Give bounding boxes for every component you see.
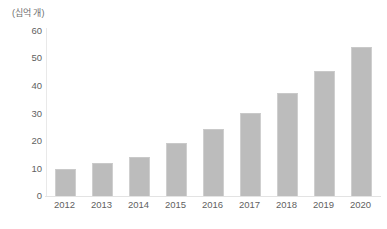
bar-group-2020: 2020 [342,0,379,229]
x-tick-label-2014: 2014 [120,200,157,210]
bar-2018 [277,93,298,196]
y-tick-label-30: 30 [20,109,42,119]
bar-group-2018: 2018 [268,0,305,229]
y-tick-label-60: 60 [20,26,42,36]
bar-2019 [314,71,335,196]
bar-2016 [203,129,224,196]
bars-layer: 2012 2013 2014 2015 2016 2017 2018 [46,0,381,229]
bar-group-2016: 2016 [194,0,231,229]
x-tick-label-2017: 2017 [231,200,268,210]
y-tick-label-40: 40 [20,81,42,91]
x-tick-label-2016: 2016 [194,200,231,210]
y-axis-tick-labels: 60 50 40 30 20 10 0 [16,0,42,229]
y-tick-label-10: 10 [20,164,42,174]
bar-group-2017: 2017 [231,0,268,229]
bar-group-2015: 2015 [157,0,194,229]
bar-2012 [55,169,76,196]
bar-2020 [351,47,372,197]
bar-group-2019: 2019 [305,0,342,229]
y-tick-label-50: 50 [20,53,42,63]
x-tick-label-2018: 2018 [268,200,305,210]
x-tick-label-2019: 2019 [305,200,342,210]
x-tick-label-2012: 2012 [46,200,83,210]
y-tick-label-0: 0 [20,191,42,201]
bar-group-2014: 2014 [120,0,157,229]
bar-2014 [129,157,150,197]
bar-group-2013: 2013 [83,0,120,229]
x-tick-label-2013: 2013 [83,200,120,210]
y-tick-label-20: 20 [20,136,42,146]
bar-2015 [166,143,187,196]
bar-chart: (십억 개) 60 50 40 30 20 10 0 2012 2013 201… [0,0,387,229]
bar-2013 [92,163,113,196]
x-tick-label-2015: 2015 [157,200,194,210]
x-tick-label-2020: 2020 [342,200,379,210]
bar-2017 [240,113,261,197]
bar-group-2012: 2012 [46,0,83,229]
